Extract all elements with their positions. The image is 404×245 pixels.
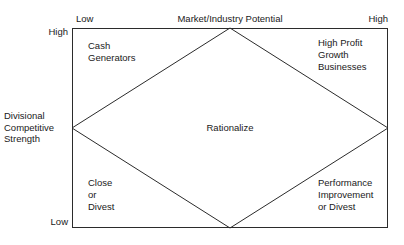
center-label-rationalize: Rationalize bbox=[160, 122, 300, 134]
market-industry-potential-matrix: Market/Industry Potential Low High Divis… bbox=[0, 0, 404, 245]
vertical-axis-title: Divisional Competitive Strength bbox=[4, 110, 68, 145]
vertical-axis-high-label: High bbox=[8, 26, 68, 38]
quadrant-label-cash-generators: Cash Generators bbox=[88, 40, 136, 64]
quadrant-label-close-or-divest: Close or Divest bbox=[88, 177, 114, 213]
horizontal-axis-high-label: High bbox=[288, 13, 388, 25]
quadrant-label-performance-improvement-or-divest: Performance Improvement or Divest bbox=[318, 177, 373, 213]
horizontal-axis-low-label: Low bbox=[76, 13, 93, 25]
quadrant-label-high-profit-growth-businesses: High Profit Growth Businesses bbox=[318, 37, 367, 73]
vertical-axis-low-label: Low bbox=[8, 216, 68, 228]
